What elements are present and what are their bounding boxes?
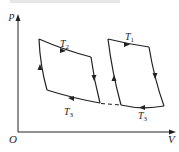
right-left-adiabat (108, 39, 121, 105)
label-T3-right: T3 (138, 110, 148, 123)
left-cycle (39, 39, 100, 103)
y-axis-arrow-icon (16, 14, 21, 21)
arrow-icon (112, 75, 117, 81)
axes (16, 14, 177, 135)
label-T1: T1 (125, 31, 135, 44)
x-axis-label: V (168, 133, 176, 145)
left-right-adiabat (91, 57, 100, 103)
dashed-connector (101, 104, 121, 106)
origin-label: O (9, 133, 17, 145)
pv-diagram: p V O T2 T3 T1 T3 (0, 0, 179, 152)
cropped-text (10, 0, 120, 3)
arrow-icon (153, 73, 158, 79)
right-cycle-arrows (112, 42, 158, 110)
arrow-icon (92, 75, 97, 81)
label-T3-left: T3 (64, 106, 74, 119)
right-right-adiabat (149, 47, 164, 106)
y-axis-label: p (8, 9, 15, 21)
